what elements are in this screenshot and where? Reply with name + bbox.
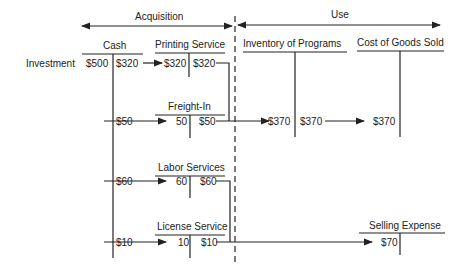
license-credit: $10 [201,237,218,249]
license-source: $10 [116,237,133,249]
selling-debit: $70 [381,237,398,249]
inventory-credit: $370 [300,116,322,128]
labor-source: $60 [116,176,133,188]
freight-debit: 50 [176,116,187,128]
labor-title: Labor Services [158,162,225,174]
section-use: Use [331,9,349,21]
freight-source: $50 [116,116,133,128]
cash-title: Cash [103,40,126,52]
cogs-title: Cost of Goods Sold [357,37,444,49]
cash-debit: $500 [86,58,108,70]
inventory-debit: $370 [268,116,290,128]
inventory-title: Inventory of Programs [243,38,341,50]
freight-credit: $50 [199,116,216,128]
investment-label: Investment [26,58,75,70]
cash-credit: $320 [116,58,138,70]
labor-credit: $60 [200,176,217,188]
printing-title: Printing Service [155,39,225,51]
license-title: License Service [157,221,228,233]
selling-title: Selling Expense [369,220,441,232]
cogs-debit: $370 [373,116,395,128]
license-debit: 10 [178,237,189,249]
section-acquisition: Acquisition [135,11,183,23]
freight-title: Freight-In [168,101,211,113]
printing-debit: $320 [164,58,186,70]
labor-debit: 60 [176,176,187,188]
printing-credit: $320 [193,58,215,70]
